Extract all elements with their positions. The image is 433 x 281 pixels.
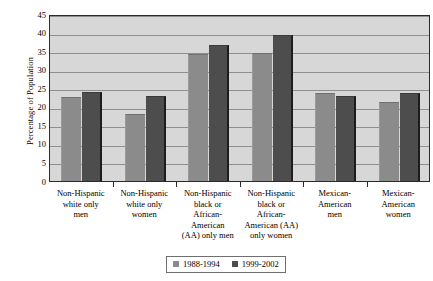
gridline bbox=[50, 146, 429, 147]
legend-label: 1999-2002 bbox=[242, 259, 279, 269]
x-axis-ticks bbox=[49, 182, 430, 187]
gridline bbox=[50, 164, 429, 165]
x-axis-tick bbox=[113, 182, 114, 187]
x-axis-category-label: Non-Hispanicwhite onlymen bbox=[49, 188, 113, 220]
x-axis-tick bbox=[303, 182, 304, 187]
category-label-line: Mexican- bbox=[303, 188, 367, 199]
bar bbox=[125, 114, 145, 181]
category-label-line: American bbox=[303, 199, 367, 210]
bar bbox=[82, 92, 102, 181]
legend-swatch-icon bbox=[232, 261, 238, 267]
bar bbox=[209, 45, 229, 181]
bar-chart: Percentage of Population 051015202530354… bbox=[0, 0, 433, 281]
gridline bbox=[50, 109, 429, 110]
x-axis-category-label: Mexican-Americanmen bbox=[303, 188, 367, 220]
y-axis-tick-label: 0 bbox=[20, 178, 46, 187]
x-axis-tick bbox=[367, 182, 368, 187]
gridline bbox=[50, 53, 429, 54]
gridline bbox=[50, 90, 429, 91]
y-axis-tick-label: 45 bbox=[20, 11, 46, 20]
category-label-line: (AA) only men bbox=[176, 230, 240, 241]
chart-legend: 1988-19941999-2002 bbox=[166, 256, 286, 273]
gridline bbox=[50, 127, 429, 128]
x-axis-category-label: Mexican-Americanwomen bbox=[367, 188, 431, 220]
category-label-line: Non-Hispanic bbox=[49, 188, 113, 199]
x-axis-category-labels: Non-Hispanicwhite onlymenNon-Hispanicwhi… bbox=[49, 188, 430, 246]
category-label-line: men bbox=[49, 209, 113, 220]
legend-entry: 1988-1994 bbox=[173, 259, 220, 269]
category-label-line: American bbox=[367, 199, 431, 210]
y-axis-tick-label: 10 bbox=[20, 140, 46, 149]
bar bbox=[188, 54, 208, 181]
category-label-line: Non-Hispanic bbox=[240, 188, 304, 199]
category-label-line: American (AA) bbox=[240, 220, 304, 231]
category-label-line: white only bbox=[49, 199, 113, 210]
legend-label: 1988-1994 bbox=[183, 259, 220, 269]
category-label-line: Non-Hispanic bbox=[176, 188, 240, 199]
y-axis-tick-label: 25 bbox=[20, 85, 46, 94]
category-label-line: American bbox=[176, 220, 240, 231]
bar bbox=[315, 93, 335, 181]
category-label-line: African- bbox=[176, 209, 240, 220]
category-label-line: white only bbox=[113, 199, 177, 210]
y-axis-tick-label: 20 bbox=[20, 103, 46, 112]
y-axis-tick-label: 35 bbox=[20, 48, 46, 57]
y-axis-tick-label: 30 bbox=[20, 66, 46, 75]
bar bbox=[273, 35, 293, 181]
bar bbox=[336, 96, 356, 181]
gridline bbox=[50, 16, 429, 17]
y-axis-tick-label: 15 bbox=[20, 122, 46, 131]
x-axis-tick bbox=[240, 182, 241, 187]
gridline bbox=[50, 35, 429, 36]
y-axis-tick-label: 5 bbox=[20, 159, 46, 168]
category-label-line: women bbox=[113, 209, 177, 220]
category-label-line: black or bbox=[240, 199, 304, 210]
x-axis-tick bbox=[176, 182, 177, 187]
bar bbox=[252, 53, 272, 181]
category-label-line: men bbox=[303, 209, 367, 220]
bar bbox=[400, 93, 420, 181]
legend-swatch-icon bbox=[173, 261, 179, 267]
bar bbox=[61, 97, 81, 181]
x-axis-category-label: Non-Hispanicwhite onlywomen bbox=[113, 188, 177, 220]
category-label-line: African- bbox=[240, 209, 304, 220]
legend-entry: 1999-2002 bbox=[232, 259, 279, 269]
plot-area bbox=[49, 15, 430, 182]
category-label-line: only women bbox=[240, 230, 304, 241]
category-label-line: Mexican- bbox=[367, 188, 431, 199]
y-axis-tick-labels: 051015202530354045 bbox=[20, 10, 46, 187]
category-label-line: black or bbox=[176, 199, 240, 210]
x-axis-category-label: Non-Hispanicblack orAfrican-American(AA)… bbox=[176, 188, 240, 241]
gridline bbox=[50, 72, 429, 73]
bar bbox=[146, 96, 166, 181]
x-axis-category-label: Non-Hispanicblack orAfrican-American (AA… bbox=[240, 188, 304, 241]
category-label-line: women bbox=[367, 209, 431, 220]
bar bbox=[379, 102, 399, 181]
y-axis-tick-label: 40 bbox=[20, 29, 46, 38]
category-label-line: Non-Hispanic bbox=[113, 188, 177, 199]
